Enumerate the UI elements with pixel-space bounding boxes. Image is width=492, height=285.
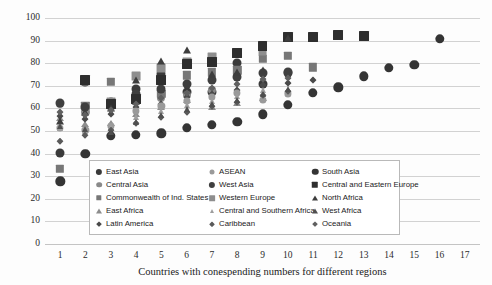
data-point — [182, 71, 190, 79]
x-axis-tick-label: 6 — [184, 251, 189, 261]
legend-item[interactable]: Oceania — [311, 220, 419, 229]
circle-marker-icon — [95, 180, 103, 189]
data-point — [56, 115, 64, 121]
legend-item[interactable]: Commonwealth of Ind. States — [95, 193, 208, 202]
data-point — [208, 94, 215, 101]
data-point — [284, 52, 292, 60]
data-point — [81, 77, 90, 86]
data-point — [207, 120, 216, 129]
legend-item[interactable]: ASEAN — [208, 167, 311, 176]
legend-item[interactable]: Central and Southern Africa — [208, 207, 311, 216]
data-point — [285, 86, 291, 92]
y-axis-tick-label: 100 — [26, 13, 40, 23]
legend-item-label: Central and Eastern Europe — [322, 181, 419, 189]
data-point — [308, 88, 317, 97]
data-point — [133, 101, 140, 108]
data-point — [208, 90, 215, 97]
data-point — [234, 98, 241, 105]
data-point — [56, 98, 65, 107]
y-axis-tick-label: 90 — [31, 36, 41, 46]
data-point — [258, 55, 266, 63]
data-point — [209, 98, 215, 104]
gridline — [45, 244, 480, 245]
data-point — [158, 114, 165, 121]
legend-item[interactable]: South Asia — [311, 167, 419, 176]
data-point — [183, 97, 190, 104]
y-axis-tick-label: 40 — [31, 149, 41, 159]
square-marker-icon — [95, 193, 103, 202]
data-point — [106, 98, 115, 107]
legend-item-label: Oceania — [322, 220, 351, 228]
data-point — [435, 34, 444, 43]
data-point — [55, 176, 64, 185]
data-point — [132, 90, 141, 99]
gridline — [45, 108, 480, 109]
data-point — [108, 124, 114, 130]
x-axis-tick-label: 10 — [283, 251, 293, 261]
data-point — [82, 132, 89, 139]
legend-item-label: Central Asia — [106, 181, 148, 189]
triangle-marker-icon — [208, 207, 216, 216]
data-point — [107, 120, 115, 126]
data-point — [234, 89, 241, 96]
legend-item-label: ASEAN — [219, 168, 245, 176]
data-point — [57, 112, 64, 119]
x-axis-tick-label: 14 — [384, 251, 394, 261]
data-point — [106, 98, 115, 107]
circle-marker-icon — [311, 167, 319, 176]
y-axis-tick-label: 20 — [31, 194, 41, 204]
data-point — [207, 53, 216, 62]
data-point — [208, 68, 216, 76]
data-point — [309, 63, 317, 71]
data-point — [157, 63, 166, 72]
diamond-marker-icon — [208, 220, 216, 229]
legend-item-label: Western Europe — [219, 194, 275, 202]
legend-item[interactable]: North Africa — [311, 193, 419, 202]
data-point — [234, 86, 241, 93]
circle-marker-icon — [208, 180, 216, 189]
data-point — [106, 131, 115, 140]
data-point — [131, 94, 141, 104]
data-point — [132, 111, 140, 117]
data-point — [81, 121, 89, 127]
y-axis-tick-label: 80 — [31, 58, 41, 68]
legend-item[interactable]: Western Europe — [208, 193, 311, 202]
legend-item[interactable]: East Asia — [95, 167, 208, 176]
data-point — [157, 129, 166, 138]
legend-item[interactable]: West Africa — [311, 207, 419, 216]
data-point — [80, 75, 90, 85]
gridline — [45, 18, 480, 19]
legend-item[interactable]: West Asia — [208, 180, 311, 189]
data-point — [333, 30, 343, 40]
data-point — [260, 87, 266, 93]
data-point — [57, 123, 63, 129]
legend-item[interactable]: Central and Eastern Europe — [311, 180, 419, 189]
data-point — [209, 101, 215, 107]
data-point — [132, 71, 141, 80]
legend-item-label: West Africa — [322, 207, 361, 215]
data-point — [107, 103, 115, 111]
legend-item[interactable]: Central Asia — [95, 180, 208, 189]
data-point — [81, 109, 89, 116]
data-point — [283, 68, 292, 77]
data-point — [208, 70, 216, 77]
legend-item[interactable]: Caribbean — [208, 220, 311, 229]
data-point — [132, 96, 140, 104]
legend-item[interactable]: East Africa — [95, 207, 208, 216]
data-point — [234, 93, 240, 99]
chart-legend: East AsiaASEANSouth AsiaCentral AsiaWest… — [89, 160, 400, 235]
data-point — [183, 93, 190, 100]
gridline — [45, 154, 480, 155]
x-axis-tick-label: 1 — [58, 251, 63, 261]
diamond-marker-icon — [95, 220, 103, 229]
y-axis-tick-label: 30 — [31, 171, 41, 181]
data-point — [233, 66, 241, 74]
y-axis-tick-label: 70 — [31, 81, 41, 91]
data-point — [233, 117, 242, 126]
gridline — [45, 131, 480, 132]
data-point — [260, 91, 266, 97]
y-axis-tick-label: 60 — [31, 104, 41, 114]
legend-item[interactable]: Latin America — [95, 220, 208, 229]
data-point — [183, 109, 190, 116]
data-point — [258, 80, 267, 89]
